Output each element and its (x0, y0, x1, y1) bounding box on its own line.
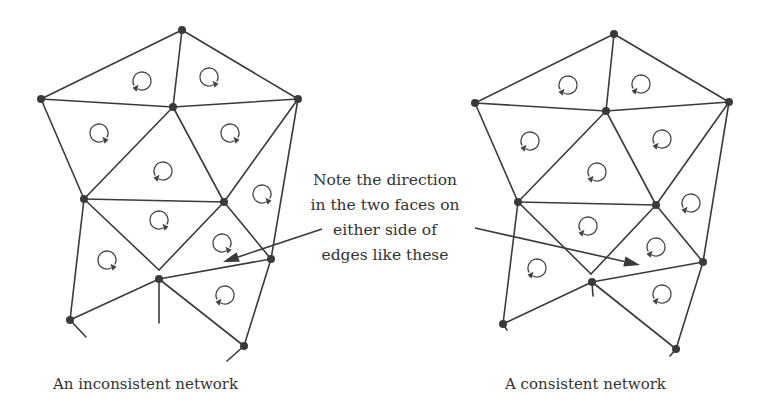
arrowhead-icon (632, 88, 638, 95)
network-edge (518, 111, 606, 202)
network-edge (224, 99, 298, 202)
annotation-note: Note the direction in the two faces on e… (300, 168, 470, 268)
arrowhead-icon (653, 143, 659, 150)
network-node (220, 198, 228, 206)
network-node (588, 278, 596, 286)
network-edge (475, 34, 614, 103)
note-line-3: either side of (300, 218, 470, 243)
arrowhead-icon (163, 224, 169, 231)
network-edge (173, 107, 224, 202)
arrowhead-icon (234, 137, 240, 144)
network-edge (676, 262, 703, 349)
network-node (267, 255, 275, 263)
network-edge (475, 103, 518, 202)
network-node (672, 345, 680, 353)
network-edge (271, 99, 298, 259)
arrowhead-icon (653, 298, 659, 305)
network-edge (41, 30, 182, 99)
network-node (699, 258, 707, 266)
network-edge (503, 282, 592, 324)
consistent-network (471, 30, 733, 356)
network-edge (159, 202, 224, 270)
pointer-arrowhead-icon (623, 257, 640, 267)
network-node (66, 316, 74, 324)
network-node (80, 195, 88, 203)
arrowhead-icon (588, 176, 594, 183)
arrowhead-icon (226, 247, 232, 254)
arrowhead-icon (521, 145, 527, 152)
arrowhead-icon (682, 207, 688, 214)
network-edge (70, 199, 84, 320)
arrowhead-icon (559, 89, 565, 96)
network-edge (703, 102, 729, 262)
network-edge (224, 202, 271, 259)
arrowhead-icon (111, 264, 117, 271)
network-edge (592, 282, 676, 349)
arrowhead-icon (528, 272, 534, 279)
network-node (169, 103, 177, 111)
network-node (725, 98, 733, 106)
caption-consistent-network: A consistent network (505, 375, 666, 393)
network-node (610, 30, 618, 38)
network-edge (606, 34, 614, 111)
network-edge (244, 259, 271, 346)
network-edge (503, 202, 518, 324)
arrowhead-icon (647, 251, 653, 258)
network-node (178, 26, 186, 34)
arrowhead-icon (103, 137, 109, 144)
note-line-2: in the two faces on (300, 193, 470, 218)
network-edge (173, 99, 298, 107)
network-edge (614, 34, 729, 102)
network-edge (84, 199, 224, 202)
network-edge (606, 102, 729, 111)
note-line-4: edges like these (300, 243, 470, 268)
network-node (602, 107, 610, 115)
network-edge (41, 99, 173, 107)
network-edge (173, 30, 182, 107)
network-node (37, 95, 45, 103)
network-edge (591, 205, 656, 274)
inconsistent-network (37, 26, 322, 361)
network-node (514, 198, 522, 206)
arrowhead-icon (213, 81, 219, 88)
arrowhead-icon (216, 299, 222, 306)
network-node (652, 201, 660, 209)
network-node (294, 95, 302, 103)
arrowhead-icon (579, 230, 585, 237)
caption-inconsistent-network: An inconsistent network (53, 375, 238, 393)
network-edge (606, 111, 656, 205)
network-edge (84, 199, 159, 270)
network-edge (84, 107, 173, 199)
pointer-arrowhead-icon (223, 252, 240, 262)
network-edge (592, 262, 703, 282)
network-edge (656, 102, 729, 205)
network-edge (159, 259, 271, 279)
network-node (499, 320, 507, 328)
network-edge (518, 202, 656, 205)
arrowhead-icon (154, 175, 160, 182)
network-node (240, 342, 248, 350)
network-edge (70, 279, 159, 320)
arrowhead-icon (266, 198, 272, 205)
arrowhead-icon (133, 85, 139, 92)
network-node (471, 99, 479, 107)
network-edge (475, 103, 606, 111)
network-edge (41, 99, 84, 199)
network-node (155, 275, 163, 283)
note-line-1: Note the direction (300, 168, 470, 193)
network-edge (182, 30, 298, 99)
